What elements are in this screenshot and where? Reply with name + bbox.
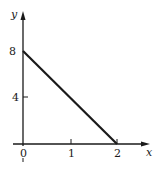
- y-axis-label: y: [10, 8, 18, 21]
- y-tick-label-8: 8: [9, 45, 16, 58]
- data-line: [23, 51, 117, 144]
- x-tick-label-2: 2: [114, 147, 121, 160]
- y-axis-arrow-icon: [21, 11, 26, 20]
- y-tick-label-4: 4: [12, 91, 19, 104]
- line-chart: y x 8 4 0 1 2: [0, 0, 161, 177]
- x-tick-label-1: 1: [68, 147, 75, 160]
- x-axis-label: x: [146, 146, 153, 159]
- x-tick-label-0: 0: [20, 147, 27, 160]
